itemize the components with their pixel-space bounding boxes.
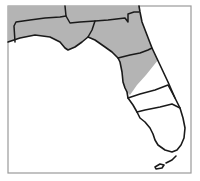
florida-map <box>0 0 200 181</box>
